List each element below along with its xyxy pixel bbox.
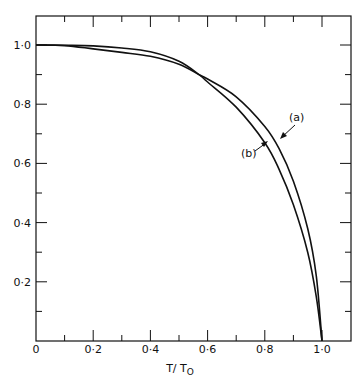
series-a-line bbox=[36, 45, 322, 341]
series-b-label: (b) bbox=[241, 147, 257, 160]
x-tick-label: 0 bbox=[33, 343, 40, 356]
y-tick-label: 0·8 bbox=[14, 98, 32, 111]
x-tick-label: 1·0 bbox=[313, 343, 331, 356]
chart: 00·20·40·60·81·00·20·40·60·81·0 (a) (b) … bbox=[0, 0, 362, 384]
axis-tick-labels: 00·20·40·60·81·00·20·40·60·81·0 bbox=[14, 39, 331, 356]
x-tick-label: 0·2 bbox=[84, 343, 102, 356]
axis-ticks bbox=[36, 16, 351, 341]
x-axis-title: T/ TO bbox=[165, 362, 194, 377]
series-a-label: (a) bbox=[289, 111, 304, 124]
series-b-line bbox=[36, 45, 322, 341]
x-tick-label: 0·4 bbox=[142, 343, 160, 356]
y-tick-label: 0·4 bbox=[14, 217, 32, 230]
y-tick-label: 1·0 bbox=[14, 39, 32, 52]
plot-frame bbox=[36, 16, 351, 341]
y-tick-label: 0·6 bbox=[14, 157, 32, 170]
x-tick-label: 0·8 bbox=[256, 343, 274, 356]
y-tick-label: 0·2 bbox=[14, 276, 32, 289]
x-tick-label: 0·6 bbox=[199, 343, 217, 356]
